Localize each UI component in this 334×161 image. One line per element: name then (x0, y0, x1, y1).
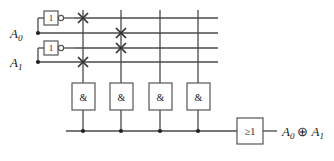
output-label: A0⊕A1 (281, 124, 324, 141)
and-gate-2: & (110, 83, 133, 131)
circuit-diagram: A0 A1 1 1 (0, 0, 334, 161)
svg-text:≥1: ≥1 (245, 126, 256, 137)
svg-text:&: & (118, 92, 126, 103)
inverter-a0: 1 (44, 11, 74, 25)
svg-text:&: & (195, 92, 203, 103)
svg-text:&: & (157, 92, 165, 103)
and-gate-3: & (149, 83, 172, 131)
or-gate: ≥1 (237, 118, 277, 144)
svg-text:&: & (80, 92, 88, 103)
and-gate-1: & (72, 83, 95, 131)
and-gate-4: & (187, 83, 210, 131)
input-label-a0: A0 (9, 26, 23, 43)
svg-text:1: 1 (49, 13, 54, 23)
svg-text:1: 1 (49, 43, 54, 53)
or-input-bus (66, 129, 237, 133)
input-label-a1: A1 (9, 55, 22, 72)
inverter-a1: 1 (44, 41, 74, 55)
